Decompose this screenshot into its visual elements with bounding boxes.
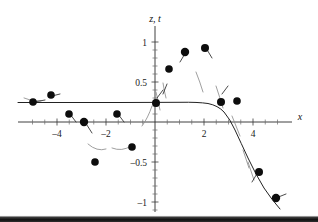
x-tick-label-neg2: –2 — [100, 129, 111, 139]
point-tick-strokes — [34, 48, 286, 198]
data-point — [113, 110, 121, 118]
x-axis-title: x — [297, 111, 303, 122]
page-edge-artifact — [0, 214, 318, 222]
data-point — [255, 168, 263, 176]
x-tick-label-pos4: 4 — [251, 129, 256, 139]
y-axis-title: z, t — [148, 13, 161, 24]
axis-lines — [18, 26, 292, 212]
data-point — [272, 194, 280, 202]
data-point — [47, 91, 55, 99]
data-point — [217, 98, 225, 106]
data-point — [152, 99, 160, 107]
fitted-curve — [18, 102, 280, 209]
data-point — [29, 98, 37, 106]
x-tick-label-neg4: –4 — [51, 129, 62, 139]
data-point — [128, 143, 136, 151]
x-tick-label-pos2: 2 — [202, 129, 207, 139]
minor-ticks — [33, 50, 278, 210]
data-point — [91, 158, 99, 166]
data-point — [233, 97, 241, 105]
data-point — [201, 44, 209, 52]
data-point — [181, 48, 189, 56]
y-tick-label-neg05: –0.5 — [129, 158, 147, 168]
data-point — [80, 118, 88, 126]
y-tick-label-pos1: 1 — [142, 38, 147, 48]
y-tick-label-pos05: 0.5 — [135, 78, 147, 88]
figure-container: –4 –2 2 4 1 0.5 –0.5 –1 z, t x — [0, 0, 318, 222]
data-point — [65, 110, 73, 118]
data-point — [165, 65, 173, 73]
scatter-plot-svg: –4 –2 2 4 1 0.5 –0.5 –1 z, t x — [0, 0, 318, 222]
y-tick-label-neg1: –1 — [137, 198, 148, 208]
